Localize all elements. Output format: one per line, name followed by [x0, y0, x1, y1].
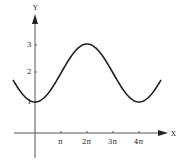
- y-tick-3: 3: [27, 41, 31, 49]
- x-axis-arrow-icon: [158, 130, 168, 136]
- chart: Y X 3 2 1 π 2π 3π 4π: [0, 0, 180, 163]
- y-axis-arrow-icon: [32, 14, 38, 24]
- x-tick-2pi: 2π: [82, 138, 91, 146]
- y-axis-title: Y: [32, 4, 38, 12]
- y-tick-2: 2: [27, 68, 31, 76]
- x-axis-title: X: [171, 130, 176, 138]
- x-tick-3pi: 3π: [108, 138, 117, 146]
- x-tick-pi: π: [58, 138, 63, 146]
- x-tick-4pi: 4π: [134, 138, 143, 146]
